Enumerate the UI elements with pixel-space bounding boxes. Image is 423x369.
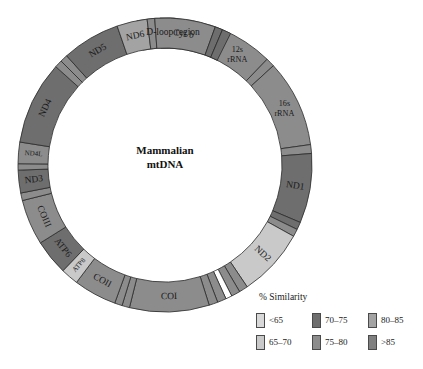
mtdna-circular-map: D-loop region12srRNA16srRNAND1ND2COICOII… [0,0,423,369]
legend-item: 75–80 [312,335,368,350]
ring-segment [18,164,48,170]
legend-label: 70–75 [325,315,348,325]
legend-swatch [312,335,321,350]
legend-label: >85 [381,337,395,347]
legend-swatch [312,313,321,328]
legend-item: <65 [256,313,312,328]
legend-label: <65 [269,315,283,325]
segment-label: ND4L [24,149,42,158]
legend-swatch [368,335,377,350]
legend-label: 65–70 [269,337,292,347]
segment-label: ND3 [24,173,44,185]
legend-swatch [368,313,377,328]
center-title-line1: Mammalian [136,144,193,156]
legend-item: 65–70 [256,335,312,350]
legend-grid: <6570–7580–8565–7075–80>85 [256,309,421,353]
legend-item: 80–85 [368,313,423,328]
legend-title: % Similarity [259,292,421,302]
legend-item: >85 [368,335,423,350]
legend-swatch [256,335,265,350]
center-title-line2: mtDNA [147,158,184,170]
legend-label: 75–80 [325,337,348,347]
legend-item: 70–75 [312,313,368,328]
legend-swatch [256,313,265,328]
similarity-legend: % Similarity <6570–7580–8565–7075–80>85 [256,292,421,353]
segment-label: COI [161,291,178,301]
legend-label: 80–85 [381,315,404,325]
